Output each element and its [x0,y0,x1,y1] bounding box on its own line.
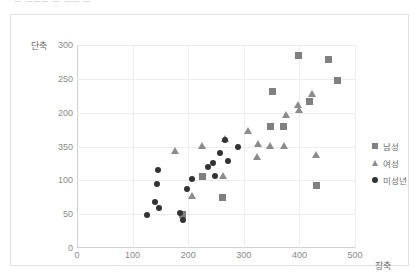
x-axis-tick-label: 300 [236,250,251,260]
chart-legend: 남성여성미성년 [371,137,419,188]
x-axis-tick-label: 0 [74,250,79,260]
data-point-circle [154,181,160,187]
gridline-horizontal [77,45,355,46]
gridline-vertical [133,45,134,248]
data-point-triangle [171,147,179,154]
data-point-circle [212,173,218,179]
clipped-top-text: ㅡ ㅡㅡㅡ ㅡ ㅡㅡ ㅡ [14,0,244,6]
data-point-triangle [244,127,252,134]
data-point-circle [144,212,150,218]
gridline-vertical [355,45,356,248]
data-point-circle [156,205,162,211]
data-point-triangle [295,106,303,113]
data-point-circle [217,150,223,156]
data-point-square [267,123,274,130]
x-axis-tick-label: 400 [292,250,307,260]
x-axis-tick-labels: 0100200300400500 [77,250,355,266]
data-point-square [334,77,341,84]
y-axis-tick-labels: 050100350200250300 [21,45,73,248]
y-axis-tick-label: 0 [68,243,73,253]
gridline-horizontal [77,79,355,80]
x-axis-tick-label: 500 [347,250,362,260]
data-point-triangle [266,142,274,149]
legend-item-label: 미성년 [383,174,407,186]
data-point-circle [235,144,241,150]
x-axis-line [77,247,355,248]
gridline-vertical [244,45,245,248]
plot-area [77,45,355,248]
gridline-horizontal [77,147,355,148]
data-point-square [306,98,313,105]
data-point-circle [225,158,231,164]
chart-frame: 단축 장축 050100350200250300 010020030040050… [10,14,409,266]
data-point-circle [155,167,161,173]
triangle-marker-icon [371,160,379,166]
data-point-triangle [308,90,316,97]
legend-item-label: 여성 [383,157,399,169]
legend-item[interactable]: 여성 [371,154,419,171]
data-point-triangle [188,192,196,199]
data-point-circle [180,217,186,223]
x-axis-tick-label: 100 [125,250,140,260]
data-point-square [313,182,320,189]
data-point-square [219,194,226,201]
y-axis-tick-label: 100 [58,175,73,185]
data-point-triangle [219,172,227,179]
y-axis-tick-label: 50 [63,209,73,219]
data-point-square [295,52,302,59]
y-axis-tick-label: 250 [58,74,73,84]
gridline-vertical [188,45,189,248]
x-axis-tick-label: 200 [181,250,196,260]
legend-item-label: 남성 [383,140,399,152]
data-point-triangle [254,140,262,147]
data-point-square [269,88,276,95]
data-point-triangle [253,153,261,160]
x-axis-title: 장축 [375,259,391,272]
data-point-triangle [282,111,290,118]
data-point-circle [222,137,228,143]
data-point-circle [189,176,195,182]
gridline-horizontal [77,113,355,114]
y-axis-tick-label: 300 [58,40,73,50]
data-point-triangle [280,142,288,149]
data-point-circle [210,160,216,166]
chart-screenshot: ㅡ ㅡㅡㅡ ㅡ ㅡㅡ ㅡ 단축 장축 050100350200250300 01… [0,0,419,277]
square-marker-icon [371,143,379,149]
gridline-horizontal [77,214,355,215]
y-axis-tick-label: 350 [58,142,73,152]
legend-item[interactable]: 미성년 [371,171,419,188]
circle-marker-icon [371,177,379,183]
gridline-vertical [299,45,300,248]
data-point-circle [152,199,158,205]
data-point-square [325,56,332,63]
data-point-triangle [312,151,320,158]
data-point-square [280,123,287,130]
data-point-triangle [198,142,206,149]
y-axis-tick-label: 200 [58,108,73,118]
data-point-square [199,173,206,180]
legend-item[interactable]: 남성 [371,137,419,154]
